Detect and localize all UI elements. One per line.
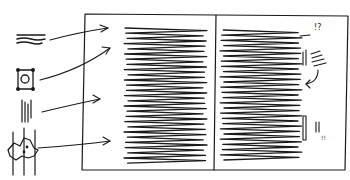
right-page-text-block: [220, 30, 302, 160]
margin-annotations: [300, 35, 326, 140]
left-page-text-block: [124, 28, 207, 163]
sketch-canvas: [0, 0, 350, 180]
framed-picture-icon: [17, 69, 35, 91]
map-figure-icon: [8, 128, 38, 175]
arrows: [38, 25, 110, 148]
page-spread: [82, 14, 348, 170]
annotation-top-mark: !?: [314, 23, 321, 32]
wavy-lines-icon: [17, 35, 45, 44]
annotation-bottom-mark: !!: [321, 134, 326, 141]
vertical-text-icon: [22, 100, 31, 122]
